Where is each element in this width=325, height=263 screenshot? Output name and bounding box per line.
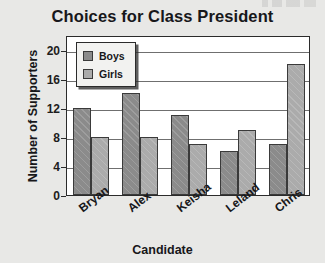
- y-axis-tick-label: 16: [34, 73, 60, 87]
- y-axis-tick-mark: [61, 51, 66, 52]
- y-axis-tick-mark: [61, 80, 66, 81]
- bar-group: [213, 37, 262, 195]
- y-axis-tick-label: 4: [34, 160, 60, 174]
- legend-label: Boys: [99, 50, 125, 62]
- y-axis-tick-mark: [61, 138, 66, 139]
- bar-boys: [269, 144, 287, 195]
- x-axis-tick-labels: BryanAlexKeishaLelandChris: [66, 198, 310, 240]
- bar-boys: [171, 115, 189, 195]
- y-axis-tick-mark: [61, 167, 66, 168]
- y-axis-tick-mark: [61, 109, 66, 110]
- bar-boys: [122, 93, 140, 195]
- bar-girls: [287, 64, 305, 195]
- chart-figure: Choices for Class President Number of Su…: [0, 0, 325, 263]
- y-axis-tick-label: 12: [34, 102, 60, 116]
- y-axis-tick-label: 0: [34, 189, 60, 203]
- bar-girls: [140, 137, 158, 195]
- legend-item: Girls: [83, 66, 125, 81]
- x-axis-title: Candidate: [0, 243, 325, 257]
- chart-title: Choices for Class President: [0, 7, 325, 26]
- watermark-artifact: [262, 0, 322, 7]
- legend-label: Girls: [99, 68, 123, 80]
- bar-group: [165, 37, 214, 195]
- y-axis-tick-label: 8: [34, 131, 60, 145]
- y-axis-tick-label: 20: [34, 44, 60, 58]
- legend-swatch-boys: [83, 51, 93, 61]
- bar-group: [262, 37, 311, 195]
- legend-item: Boys: [83, 48, 125, 63]
- bar-boys: [220, 151, 238, 195]
- legend: BoysGirls: [76, 42, 136, 87]
- legend-swatch-girls: [83, 69, 93, 79]
- y-axis-tick-mark: [61, 196, 66, 197]
- bar-boys: [73, 108, 91, 195]
